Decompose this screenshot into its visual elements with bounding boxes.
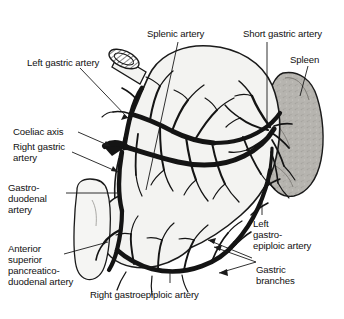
label-coeliac-axis: Coeliac axis (13, 126, 64, 137)
anatomy-figure: Splenic artery Short gastric artery Sple… (0, 0, 344, 319)
label-left-gastric-artery: Left gastric artery (27, 57, 99, 68)
oesophagus-cut-end (106, 45, 146, 84)
duodenum (74, 179, 110, 280)
leader-left-gastric (80, 68, 128, 118)
label-spleen: Spleen (290, 54, 319, 65)
label-right-gastroepiploic-artery: Right gastroepiploic artery (90, 289, 199, 300)
label-short-gastric-artery: Short gastric artery (243, 28, 322, 39)
label-splenic-artery: Splenic artery (147, 28, 204, 39)
leader-right-gastric (72, 152, 118, 172)
